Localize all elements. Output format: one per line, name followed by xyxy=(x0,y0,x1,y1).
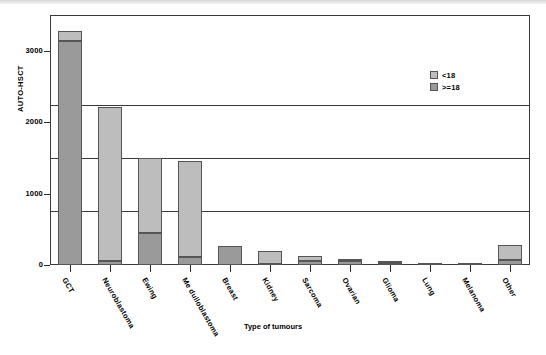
y-tick-label-1000: 1000 xyxy=(0,189,43,198)
bar-segment-adult xyxy=(138,233,163,265)
bar-ewing[interactable] xyxy=(138,158,163,265)
bar-segment-young xyxy=(498,245,523,260)
x-tick-label-glioma: Glioma xyxy=(380,276,401,304)
legend-label-young: <18 xyxy=(442,71,455,80)
bar-breast[interactable] xyxy=(218,246,243,265)
bar-neuroblastoma[interactable] xyxy=(98,107,123,265)
legend-swatch-adult xyxy=(430,83,438,91)
bar-me-dulloblastoma[interactable] xyxy=(178,161,203,265)
x-tick-mark-2 xyxy=(150,265,151,272)
bar-segment-adult xyxy=(58,41,83,265)
scan-artifact xyxy=(0,0,546,4)
x-tick-mark-0 xyxy=(70,265,71,272)
bar-gct[interactable] xyxy=(58,31,83,265)
x-tick-mark-7 xyxy=(350,265,351,272)
bar-segment-young xyxy=(178,161,203,257)
legend-item-adult: >=18 xyxy=(430,82,460,92)
bar-segment-young xyxy=(98,107,123,261)
x-tick-mark-8 xyxy=(390,265,391,272)
x-tick-label-ewing: Ewing xyxy=(140,276,159,300)
bar-segment-adult xyxy=(218,246,243,265)
x-tick-label-kidney: Kidney xyxy=(260,276,281,303)
x-axis-title: Type of tumours xyxy=(0,322,546,331)
bar-other[interactable] xyxy=(498,245,523,265)
bars-layer xyxy=(50,15,530,265)
x-tick-mark-11 xyxy=(510,265,511,272)
legend-item-young: <18 xyxy=(430,70,460,80)
x-tick-mark-3 xyxy=(190,265,191,272)
x-tick-label-breast: Breast xyxy=(220,276,240,302)
y-tick-label-3000: 3000 xyxy=(0,46,43,55)
bar-sarcoma[interactable] xyxy=(298,256,323,265)
bar-kidney[interactable] xyxy=(258,251,283,265)
x-tick-mark-5 xyxy=(270,265,271,272)
x-tick-label-gct: GCT xyxy=(60,276,76,295)
y-tick-label-2000: 2000 xyxy=(0,117,43,126)
y-tick-mark-0 xyxy=(44,265,50,266)
x-tick-mark-10 xyxy=(470,265,471,272)
bar-segment-young xyxy=(298,256,323,262)
x-tick-mark-9 xyxy=(430,265,431,272)
x-tick-mark-1 xyxy=(110,265,111,272)
bar-segment-young xyxy=(58,31,83,41)
bar-segment-young xyxy=(378,261,403,263)
bar-segment-adult xyxy=(178,257,203,265)
x-tick-mark-6 xyxy=(310,265,311,272)
x-tick-label-melanoma: Melanoma xyxy=(460,276,487,314)
x-tick-mark-4 xyxy=(230,265,231,272)
x-tick-label-lung: Lung xyxy=(420,276,437,297)
y-tick-mark-2000 xyxy=(44,122,50,123)
y-tick-label-0: 0 xyxy=(0,260,43,269)
legend-swatch-young xyxy=(430,71,438,79)
x-tick-label-ovarian: Ovarian xyxy=(340,276,362,306)
y-tick-mark-1000 xyxy=(44,194,50,195)
legend-label-adult: >=18 xyxy=(442,83,460,92)
bar-segment-young xyxy=(338,259,363,261)
x-tick-label-sarcoma: Sarcoma xyxy=(300,276,324,309)
x-tick-label-other: Other xyxy=(500,276,518,299)
y-tick-mark-3000 xyxy=(44,51,50,52)
bar-segment-young xyxy=(258,251,283,264)
bar-segment-young xyxy=(138,158,163,233)
legend: <18 >=18 xyxy=(430,70,460,94)
y-axis-title: AUTO-HSCT xyxy=(16,65,25,112)
bar-chart-figure: AUTO-HSCT 0100020003000 GCTNeuroblastoma… xyxy=(0,0,546,355)
